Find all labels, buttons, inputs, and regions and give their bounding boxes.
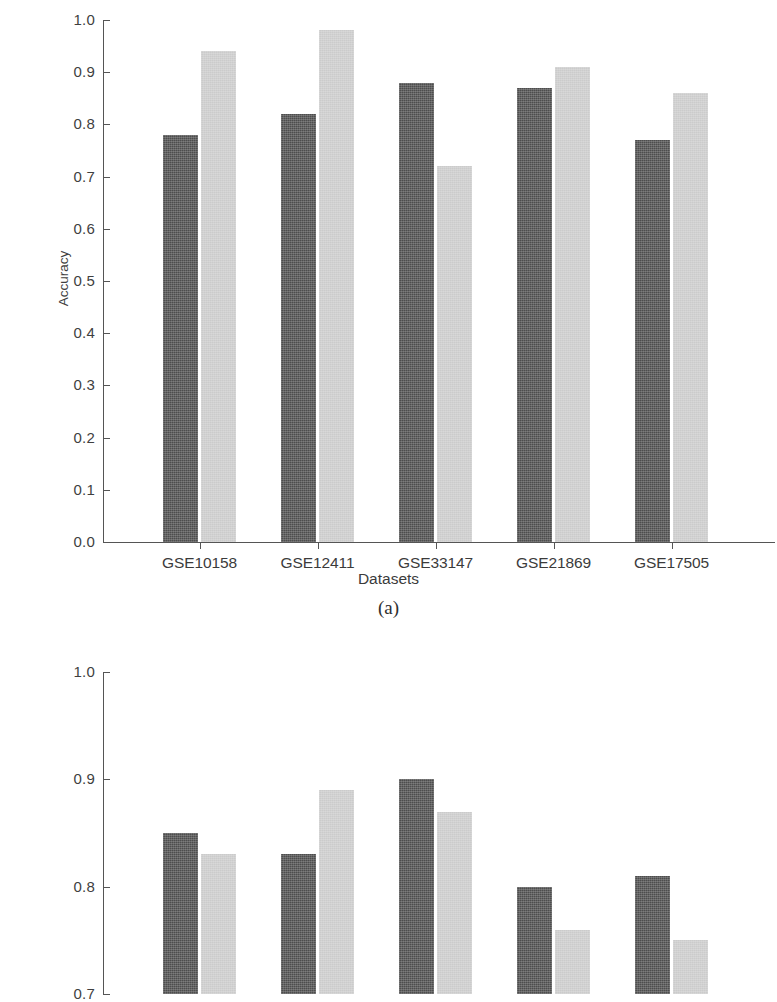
chart-panel-b: 0.70.80.91.0 bbox=[0, 630, 777, 840]
bar bbox=[399, 83, 434, 542]
x-axis-label-a: Datasets bbox=[0, 570, 777, 588]
y-tick bbox=[103, 542, 110, 543]
y-tick-label: 1.0 bbox=[55, 12, 95, 27]
x-tick bbox=[436, 542, 437, 549]
bar bbox=[319, 30, 354, 542]
bar bbox=[673, 940, 708, 994]
bar bbox=[517, 887, 552, 994]
bar bbox=[163, 135, 198, 542]
y-tick bbox=[103, 438, 110, 439]
x-tick-label: GSE21869 bbox=[489, 555, 619, 571]
chart-panel-a: Accuracy 0.00.10.20.30.40.50.60.70.80.91… bbox=[0, 0, 777, 630]
bar bbox=[437, 812, 472, 994]
plot-area-a: 0.00.10.20.30.40.50.60.70.80.91.0 GSE101… bbox=[103, 20, 743, 542]
plot-area-b: 0.70.80.91.0 bbox=[103, 672, 743, 994]
y-tick-label: 0.0 bbox=[55, 534, 95, 549]
y-tick bbox=[103, 994, 110, 995]
y-tick bbox=[103, 887, 110, 888]
x-axis-line-a bbox=[103, 542, 775, 543]
bar bbox=[319, 790, 354, 994]
bar bbox=[555, 930, 590, 994]
panel-caption-a: (a) bbox=[0, 597, 777, 619]
x-tick bbox=[200, 542, 201, 549]
y-tick-label: 0.6 bbox=[55, 221, 95, 236]
y-tick bbox=[103, 385, 110, 386]
y-tick-label: 0.7 bbox=[55, 986, 95, 1001]
bar bbox=[517, 88, 552, 542]
y-tick bbox=[103, 124, 110, 125]
y-tick-label: 0.8 bbox=[55, 879, 95, 894]
y-tick-label: 0.9 bbox=[55, 64, 95, 79]
bar bbox=[555, 67, 590, 542]
y-tick bbox=[103, 333, 110, 334]
x-tick bbox=[554, 542, 555, 549]
bar bbox=[635, 876, 670, 994]
y-tick bbox=[103, 281, 110, 282]
y-tick bbox=[103, 177, 110, 178]
y-tick-label: 0.4 bbox=[55, 325, 95, 340]
y-tick bbox=[103, 229, 110, 230]
y-tick-label: 0.8 bbox=[55, 116, 95, 131]
y-tick-label: 0.5 bbox=[55, 273, 95, 288]
x-tick-label: GSE10158 bbox=[135, 555, 265, 571]
x-tick-label: GSE12411 bbox=[253, 555, 383, 571]
x-tick-label: GSE33147 bbox=[371, 555, 501, 571]
bar bbox=[163, 833, 198, 994]
bar bbox=[201, 854, 236, 994]
y-tick-label: 0.3 bbox=[55, 377, 95, 392]
bar bbox=[201, 51, 236, 542]
y-tick bbox=[103, 672, 110, 673]
bar bbox=[281, 114, 316, 542]
y-tick bbox=[103, 779, 110, 780]
bar bbox=[635, 140, 670, 542]
bar bbox=[399, 779, 434, 994]
y-tick-label: 0.7 bbox=[55, 169, 95, 184]
y-tick bbox=[103, 20, 110, 21]
y-tick-label: 0.2 bbox=[55, 430, 95, 445]
x-tick bbox=[318, 542, 319, 549]
bar bbox=[437, 166, 472, 542]
bar bbox=[281, 854, 316, 994]
bar bbox=[673, 93, 708, 542]
y-tick-label: 0.1 bbox=[55, 482, 95, 497]
y-tick-label: 1.0 bbox=[55, 664, 95, 679]
y-tick bbox=[103, 490, 110, 491]
y-tick bbox=[103, 72, 110, 73]
y-axis-line-b bbox=[103, 672, 104, 994]
x-tick bbox=[672, 542, 673, 549]
y-tick-label: 0.9 bbox=[55, 771, 95, 786]
x-tick-label: GSE17505 bbox=[607, 555, 737, 571]
